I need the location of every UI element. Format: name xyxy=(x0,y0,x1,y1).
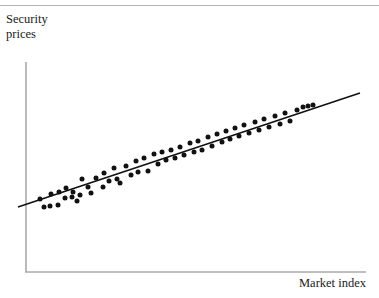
scatter-point xyxy=(89,191,94,196)
scatter-point xyxy=(134,159,139,164)
scatter-point xyxy=(129,173,134,178)
scatter-point xyxy=(233,126,238,131)
trendline-path xyxy=(18,93,360,207)
scatter-point xyxy=(169,148,174,153)
scatter-point xyxy=(196,139,201,144)
scatter-point xyxy=(80,177,85,182)
scatter-point xyxy=(101,185,106,190)
scatter-point xyxy=(306,104,311,109)
scatter-point xyxy=(57,190,62,195)
scatter-point xyxy=(188,141,193,146)
scatter-point xyxy=(136,170,141,175)
scatter-point xyxy=(63,196,68,201)
scatter-point xyxy=(107,179,112,184)
scatter-point xyxy=(206,135,211,140)
scatter-point xyxy=(210,144,215,149)
scatter-point xyxy=(118,181,123,186)
scatter-point xyxy=(86,185,91,190)
scatter-point xyxy=(237,134,242,139)
scatter-point xyxy=(102,171,107,176)
scatter-point xyxy=(257,128,262,133)
scatter-point xyxy=(267,125,272,130)
scatter-point xyxy=(64,186,69,191)
scatter-point xyxy=(242,123,247,128)
scatter-point xyxy=(78,193,83,198)
scatter-point xyxy=(247,131,252,136)
scatter-point xyxy=(311,103,316,108)
scatter-point xyxy=(94,176,99,181)
scatter-point xyxy=(71,190,76,195)
scatter-point xyxy=(283,111,288,116)
scatter-point xyxy=(156,162,161,167)
scatter-point xyxy=(182,153,187,158)
scatter-point xyxy=(273,114,278,119)
scatter-point xyxy=(152,152,157,157)
scatter-point xyxy=(301,105,306,110)
scatter-point xyxy=(48,204,53,209)
scatter-point xyxy=(173,156,178,161)
scatter-point xyxy=(228,137,233,142)
scatter-point xyxy=(288,119,293,124)
scatter-point xyxy=(215,132,220,137)
scatter-point xyxy=(262,117,267,122)
scatter-point xyxy=(115,177,120,182)
scatter-point xyxy=(178,145,183,150)
scatter-point xyxy=(200,148,205,153)
scatter-point xyxy=(49,192,54,197)
axes-group xyxy=(25,62,366,272)
scatter-point xyxy=(224,129,229,134)
scatter-chart-figure: Security prices Market index xyxy=(0,0,379,298)
scatter-point xyxy=(124,164,129,169)
trendline xyxy=(18,93,360,207)
scatter-point xyxy=(160,150,165,155)
scatter-points-group xyxy=(38,103,316,210)
scatter-point xyxy=(278,122,283,127)
scatter-point xyxy=(220,140,225,145)
scatter-point xyxy=(70,195,75,200)
scatter-point xyxy=(75,199,80,204)
scatter-point xyxy=(142,156,147,161)
scatter-point xyxy=(253,120,258,125)
scatter-point xyxy=(56,203,61,208)
scatter-point xyxy=(192,150,197,155)
scatter-point xyxy=(295,108,300,113)
scatter-point xyxy=(42,205,47,210)
scatter-point xyxy=(112,166,117,171)
scatter-point xyxy=(164,158,169,163)
scatter-point xyxy=(38,197,43,202)
scatter-point xyxy=(146,169,151,174)
plot-area xyxy=(0,0,379,298)
